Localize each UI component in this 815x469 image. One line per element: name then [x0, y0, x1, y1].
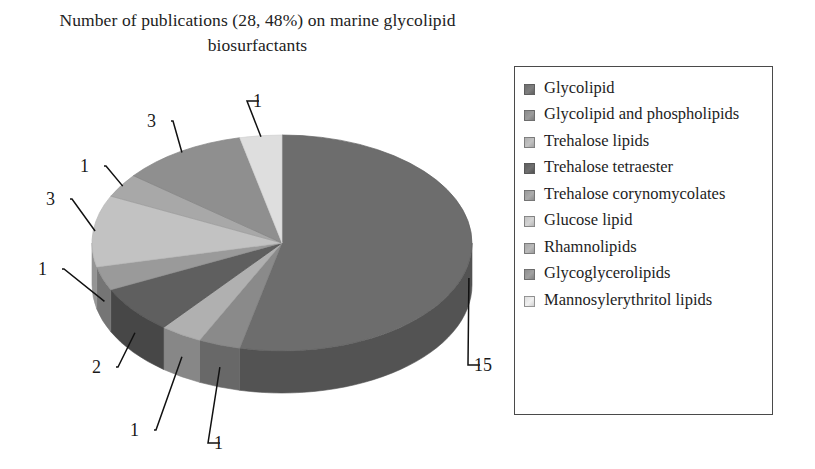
pie-plot-area: 1313121115 [0, 60, 505, 469]
legend-list: GlycolipidGlycolipid and phospholipidsTr… [524, 78, 764, 309]
legend-label: Glucose lipid [544, 210, 632, 229]
legend-item[interactable]: Mannosylerythritol lipids [524, 290, 764, 309]
legend: GlycolipidGlycolipid and phospholipidsTr… [514, 66, 773, 415]
legend-label: Trehalose lipids [544, 131, 649, 150]
legend-swatch-icon [524, 190, 535, 201]
pie-data-label: 1 [130, 421, 139, 439]
leader-line [171, 121, 182, 152]
legend-swatch-icon [524, 110, 535, 121]
pie-data-label: 2 [92, 358, 101, 376]
legend-swatch-icon [524, 163, 535, 174]
legend-item[interactable]: Trehalose lipids [524, 131, 764, 150]
pie-data-label: 3 [46, 190, 55, 208]
pie-slices [92, 135, 472, 393]
chart-title: Number of publications (28, 48%) on mari… [30, 8, 485, 58]
legend-swatch-icon [524, 243, 535, 254]
legend-swatch-icon [524, 296, 535, 307]
pie-data-label: 3 [147, 112, 156, 130]
legend-item[interactable]: Rhamnolipids [524, 237, 764, 256]
leader-line [70, 199, 95, 231]
legend-item[interactable]: Glucose lipid [524, 210, 764, 229]
legend-item[interactable]: Glycoglycerolipids [524, 263, 764, 282]
pie-data-label: 1 [253, 92, 262, 110]
legend-label: Glycolipid [544, 78, 615, 97]
pie-data-label: 1 [38, 260, 47, 278]
legend-swatch-icon [524, 269, 535, 280]
legend-label: Rhamnolipids [544, 237, 637, 256]
legend-swatch-icon [524, 84, 535, 95]
legend-swatch-icon [524, 137, 535, 148]
legend-label: Trehalose tetraester [544, 157, 673, 176]
legend-label: Glycolipid and phospholipids [544, 104, 739, 123]
pie-data-label: 1 [214, 434, 223, 452]
pie-data-label: 1 [80, 157, 89, 175]
legend-item[interactable]: Glycolipid [524, 78, 764, 97]
pie-data-label: 15 [474, 356, 492, 374]
legend-item[interactable]: Glycolipid and phospholipids [524, 104, 764, 123]
legend-swatch-icon [524, 216, 535, 227]
legend-item[interactable]: Trehalose tetraester [524, 157, 764, 176]
pie-chart-svg [0, 60, 505, 469]
legend-item[interactable]: Trehalose corynomycolates [524, 184, 764, 203]
legend-label: Trehalose corynomycolates [544, 184, 725, 203]
legend-label: Mannosylerythritol lipids [544, 290, 712, 309]
chart-page: Number of publications (28, 48%) on mari… [0, 0, 815, 469]
leader-line [104, 166, 123, 186]
legend-label: Glycoglycerolipids [544, 263, 670, 282]
